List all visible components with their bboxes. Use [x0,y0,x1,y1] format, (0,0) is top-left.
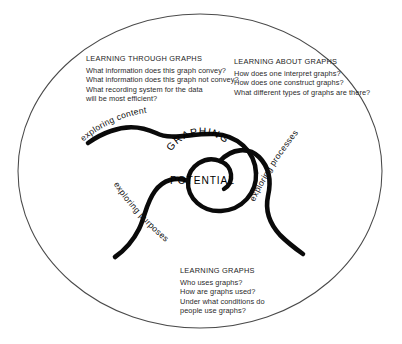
core-label-graphing: GRAPHING [164,126,232,153]
diagram-canvas: GRAPHING POTENTIAL exploring content exp… [0,0,402,344]
block-heading: LEARNING GRAPHS [180,266,265,275]
block-heading: LEARNING THROUGH GRAPHS [86,54,239,63]
core-label-potential: POTENTIAL [170,175,235,186]
text-block-learning-about-graphs: LEARNING ABOUT GRAPHS How does one inter… [234,57,370,97]
block-line: Under what conditions do [180,297,265,306]
block-line: What recording system for the data [86,85,239,94]
block-line: What information does this graph convey? [86,66,239,75]
block-line: What different types of graphs are there… [234,88,370,97]
text-block-learning-graphs: LEARNING GRAPHS Who uses graphs? How are… [180,266,265,316]
block-line: How does one construct graphs? [234,78,370,87]
arm-label-exploring-content: exploring content [78,105,147,143]
block-line: Who uses graphs? [180,278,265,287]
block-line: What information does this graph not con… [86,75,239,84]
arm-label-exploring-purposes: exploring purposes [112,180,171,244]
block-line: How does one interpret graphs? [234,69,370,78]
block-line: people use graphs? [180,306,265,315]
block-heading: LEARNING ABOUT GRAPHS [234,57,370,66]
text-block-learning-through-graphs: LEARNING THROUGH GRAPHS What information… [86,54,239,104]
spiral-arm-processes [220,150,303,254]
block-line: How are graphs used? [180,287,265,296]
block-line: will be most efficient? [86,94,239,103]
